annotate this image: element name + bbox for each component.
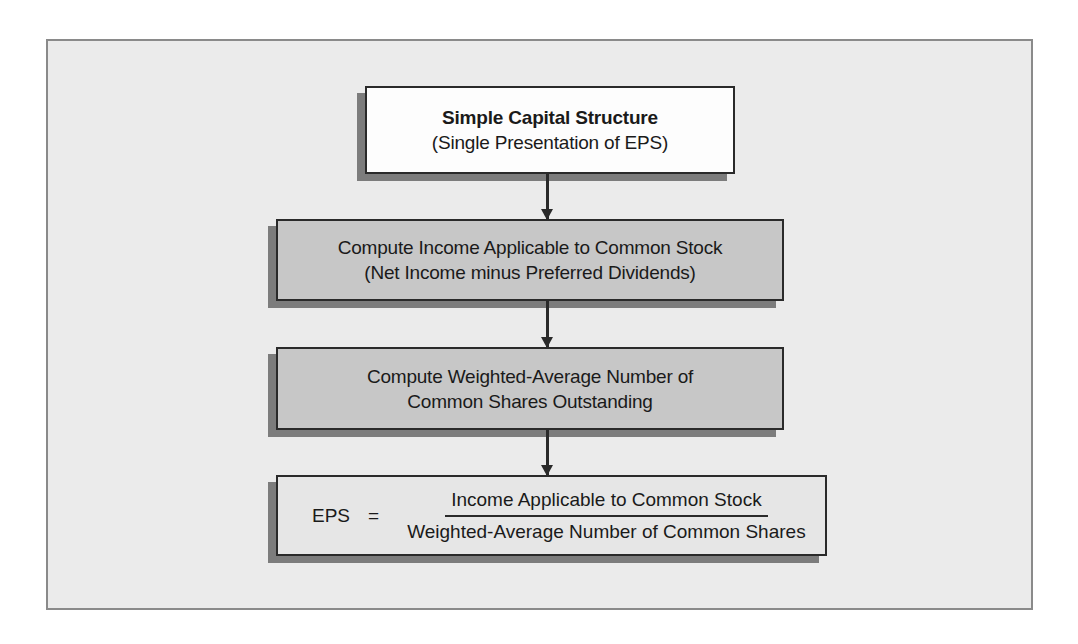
formula-denominator: Weighted-Average Number of Common Shares	[401, 517, 812, 544]
formula-equals: =	[368, 505, 379, 527]
arrow-down-icon	[546, 301, 549, 347]
title-box: Simple Capital Structure (Single Present…	[365, 86, 735, 174]
title-box-subtitle: (Single Presentation of EPS)	[432, 130, 668, 155]
arrow-down-icon	[546, 430, 549, 475]
step-1-line-2: (Net Income minus Preferred Dividends)	[364, 260, 695, 285]
title-box-heading: Simple Capital Structure	[442, 105, 658, 130]
eps-formula-box: EPS = Income Applicable to Common Stock …	[276, 475, 827, 556]
formula-fraction: Income Applicable to Common Stock Weight…	[401, 488, 812, 544]
formula-lhs: EPS	[312, 505, 350, 527]
step-2-line-1: Compute Weighted-Average Number of	[367, 364, 693, 389]
step-2-line-2: Common Shares Outstanding	[407, 389, 652, 414]
step-box-weighted-shares: Compute Weighted-Average Number of Commo…	[276, 347, 784, 430]
formula-numerator: Income Applicable to Common Stock	[445, 488, 768, 517]
step-1-line-1: Compute Income Applicable to Common Stoc…	[338, 235, 723, 260]
arrow-down-icon	[546, 174, 549, 219]
step-box-income: Compute Income Applicable to Common Stoc…	[276, 219, 784, 301]
